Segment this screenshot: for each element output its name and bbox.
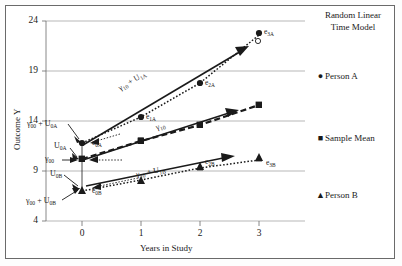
data-point-person-a-3 <box>256 30 262 36</box>
gamma-sub: 10 <box>139 172 146 179</box>
data-point-sample-mean-2 <box>197 122 203 128</box>
data-point-person-a-2 <box>197 80 203 86</box>
x-axis <box>82 221 259 226</box>
y-tick-19: 19 <box>16 66 38 76</box>
gamma-glyph: γ <box>27 119 31 128</box>
point-label-e0A: e0A <box>92 138 102 147</box>
point-label-e1A: e1A <box>146 112 156 121</box>
gamma-sub: 00 <box>31 123 37 129</box>
u-glyph: U <box>54 141 60 150</box>
legend-label-person-a: Person A <box>325 71 358 81</box>
data-point-sample-mean-3 <box>256 102 262 108</box>
annotation-gamma00: γ00 <box>45 154 54 163</box>
e-sub: 2B <box>208 161 214 167</box>
chart-figure: 24 19 14 9 4 0 1 2 3 Outcome Y Years in … <box>0 0 402 266</box>
point-label-e2B: e2B <box>205 157 215 166</box>
plus-u: + U <box>35 196 49 205</box>
e-sub: 0B <box>95 190 101 196</box>
legend-item-person-a[interactable]: ●Person A <box>316 71 358 81</box>
x-tick-3: 3 <box>249 229 269 239</box>
legend-item-sample-mean[interactable]: ■Sample Mean <box>316 133 375 143</box>
person-a-fitted-point-3 <box>255 38 260 43</box>
leader-gamma00-U0A <box>68 124 79 139</box>
sample-mean-fitted-line <box>83 112 232 160</box>
x-tick-0: 0 <box>72 229 92 239</box>
data-point-person-a-1 <box>138 114 144 120</box>
u-sub: 0B <box>49 200 56 206</box>
legend-title-line2: Time Model <box>308 22 398 33</box>
e-sub: 2A <box>208 82 215 88</box>
point-label-e3B: e3B <box>266 158 276 167</box>
square-marker: ■ <box>316 133 325 143</box>
e-sub: 0A <box>95 142 102 148</box>
e-sub: 3A <box>267 31 274 37</box>
person-b-arrowhead <box>221 153 235 162</box>
person-b-observed-path <box>82 160 259 191</box>
gamma-sub: 00 <box>49 158 55 164</box>
y-axis-title: Outcome Y <box>12 109 22 150</box>
x-tick-1: 1 <box>131 229 151 239</box>
y-tick-4: 4 <box>16 216 38 226</box>
e-sub: 3B <box>269 162 275 168</box>
u-sub: 0B <box>56 173 63 179</box>
y-tick-24: 24 <box>16 16 38 26</box>
person-a-observed-path <box>82 35 259 143</box>
point-label-e3A: e3A <box>264 27 274 36</box>
legend-item-person-b[interactable]: ▲Person B <box>316 190 358 200</box>
circle-marker: ● <box>316 71 325 81</box>
gamma-glyph: γ <box>26 196 30 205</box>
u-sub: 0A <box>50 123 57 129</box>
legend-label-person-b: Person B <box>325 190 358 200</box>
data-point-person-b-3 <box>255 153 263 161</box>
legend-label-sample-mean: Sample Mean <box>325 133 375 143</box>
annotation-U0B: U0B <box>50 169 62 178</box>
point-label-e0B: e0B <box>92 186 102 195</box>
y-tick-9: 9 <box>16 166 38 176</box>
annotation-gamma00-plus-U0A: γ00 + U0A <box>27 119 57 128</box>
person-a-arrowhead <box>235 46 249 56</box>
annotation-U0A: U0A <box>54 141 67 150</box>
gamma-glyph: γ <box>45 154 49 163</box>
u-sub: 1B <box>159 168 167 175</box>
legend-title-line1: Random Linear <box>308 10 398 21</box>
annotation-gamma00-plus-U0B: γ00 + U0B <box>26 196 56 205</box>
e-sub: 1A <box>149 116 156 122</box>
x-axis-title: Years in Study <box>140 243 193 253</box>
triangle-marker: ▲ <box>316 190 325 200</box>
person-a-markers <box>79 30 262 146</box>
u-glyph: U <box>50 169 56 178</box>
point-label-e2A: e2A <box>205 78 215 87</box>
data-point-sample-mean-1 <box>138 138 144 144</box>
annotation-arrowheads <box>70 136 81 194</box>
gamma-sub: 00 <box>30 200 36 206</box>
leader-U0B <box>64 175 78 186</box>
x-tick-2: 2 <box>190 229 210 239</box>
u-sub: 0A <box>60 145 67 151</box>
plus-u: + U <box>36 119 50 128</box>
person-b-markers <box>78 153 263 194</box>
gridlines <box>46 21 305 221</box>
